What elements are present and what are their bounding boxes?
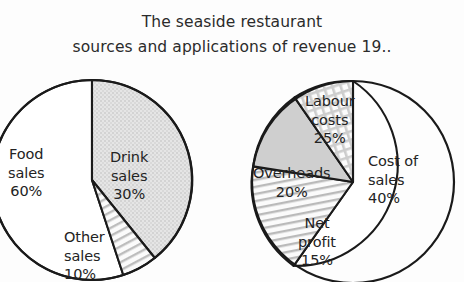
label-net-profit-line2: profit <box>298 233 336 252</box>
label-labour-costs: Labour costs 25% <box>305 92 355 148</box>
label-cost-of-sales-value: 40% <box>368 189 418 208</box>
figure-page: The seaside restaurant sources and appli… <box>0 0 464 282</box>
label-food-sales: Food sales 60% <box>8 145 44 201</box>
label-labour-costs-value: 25% <box>305 129 355 148</box>
label-food-sales-line2: sales <box>8 164 44 183</box>
label-overheads: Overheads 20% <box>253 164 330 201</box>
label-drink-sales-value: 30% <box>110 185 148 204</box>
label-food-sales-value: 60% <box>8 182 44 201</box>
label-overheads-line1: Overheads <box>253 164 330 183</box>
label-drink-sales-line2: sales <box>110 167 148 186</box>
label-other-sales-value: 10% <box>64 265 105 282</box>
label-net-profit: Net profit 15% <box>298 214 336 270</box>
label-net-profit-line1: Net <box>298 214 336 233</box>
label-cost-of-sales-line1: Cost of <box>368 152 418 171</box>
label-net-profit-value: 15% <box>298 251 336 270</box>
label-overheads-value: 20% <box>253 183 330 202</box>
label-drink-sales: Drink sales 30% <box>110 148 148 204</box>
label-drink-sales-line1: Drink <box>110 148 148 167</box>
label-other-sales: Other sales 10% <box>64 228 105 282</box>
label-other-sales-line2: sales <box>64 247 105 266</box>
label-other-sales-line1: Other <box>64 228 105 247</box>
label-labour-costs-line2: costs <box>305 111 355 130</box>
label-labour-costs-line1: Labour <box>305 92 355 111</box>
label-cost-of-sales-line2: sales <box>368 171 418 190</box>
label-cost-of-sales: Cost of sales 40% <box>368 152 418 208</box>
label-food-sales-line1: Food <box>8 145 44 164</box>
pie-charts-area: Food sales 60% Drink sales 30% Other sal… <box>0 0 464 282</box>
